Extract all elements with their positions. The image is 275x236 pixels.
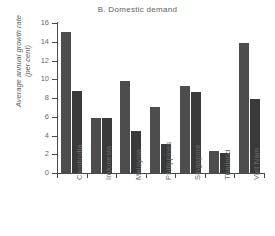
bar [91, 118, 101, 173]
x-axis-category-label: Malaysia [134, 149, 143, 180]
bar [150, 107, 160, 173]
bar [209, 151, 219, 173]
x-axis-category-label: Cambodia [75, 144, 84, 180]
x-axis-tick [205, 174, 206, 178]
y-axis-tick-label: 10 [41, 74, 49, 83]
y-axis-tick-label: 2 [45, 149, 49, 158]
y-axis-title: Average annual growth rate (per cent) [14, 0, 32, 136]
x-axis-category-label: Indonesia [104, 146, 113, 180]
y-axis-tick-label: 4 [45, 131, 49, 140]
x-axis-tick [116, 174, 117, 178]
x-axis-tick [234, 174, 235, 178]
x-axis-tick [87, 174, 88, 178]
x-axis-category-label: Viet Nam [252, 148, 261, 180]
bar [239, 43, 249, 173]
x-axis-tick [264, 174, 265, 178]
x-axis-tick [175, 174, 176, 178]
x-axis-category-label: Philippines [164, 142, 173, 180]
bar [120, 81, 130, 173]
y-axis-tick-label: 16 [41, 18, 49, 27]
bar [180, 86, 190, 173]
chart-figure: B. Domestic demand Average annual growth… [0, 0, 275, 236]
x-axis-tick [57, 174, 58, 178]
plot-area [57, 23, 264, 173]
x-axis-category-label: Thailand [223, 150, 232, 180]
y-axis-tick-label: 6 [45, 112, 49, 121]
bar [61, 32, 71, 173]
y-axis-tick-label: 14 [41, 37, 49, 46]
chart-title: B. Domestic demand [0, 5, 275, 14]
y-axis-tick-label: 0 [45, 168, 49, 177]
x-axis-category-label: Singapore [193, 144, 202, 180]
x-axis-tick [146, 174, 147, 178]
y-axis-tick-label: 12 [41, 56, 49, 65]
y-axis-tick-label: 8 [45, 93, 49, 102]
